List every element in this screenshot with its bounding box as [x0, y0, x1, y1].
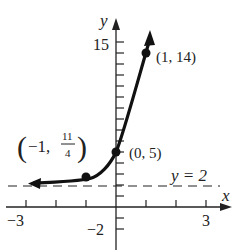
point-label-neg1-11-4: ( −1, 11 4 )	[17, 130, 87, 164]
point-neg1-11-4	[82, 173, 91, 182]
asymptote-label-text: y = 2	[169, 166, 208, 185]
curve-left-arrow-icon	[28, 178, 41, 189]
fraction-numerator: 11	[62, 130, 73, 142]
x-axis-label: x	[221, 186, 230, 205]
graph-canvas: y x 15 −2 −3 3 (1, 14) (0, 5) ( −1, 11 4…	[0, 0, 238, 252]
exponential-curve	[34, 42, 149, 183]
left-paren: (	[17, 130, 27, 164]
curve-up-arrow-icon	[144, 30, 155, 46]
x-tick-label-3: 3	[202, 212, 210, 229]
x-tick-label-neg3: −3	[7, 212, 24, 229]
label-prefix: −1,	[28, 137, 50, 156]
point-label-1-14: (1, 14)	[156, 49, 196, 66]
y-axis-arrow-icon	[112, 18, 120, 30]
asymptote-label: y = 2	[169, 166, 208, 185]
right-paren: )	[77, 130, 87, 164]
point-label-0-5: (0, 5)	[129, 145, 162, 162]
y-tick-label-15: 15	[93, 36, 109, 53]
fraction-denominator: 4	[65, 147, 71, 159]
y-axis-label: y	[98, 11, 108, 30]
point-0-5	[112, 148, 121, 157]
point-1-14	[142, 49, 151, 58]
y-tick-label-neg2: −2	[87, 221, 104, 238]
